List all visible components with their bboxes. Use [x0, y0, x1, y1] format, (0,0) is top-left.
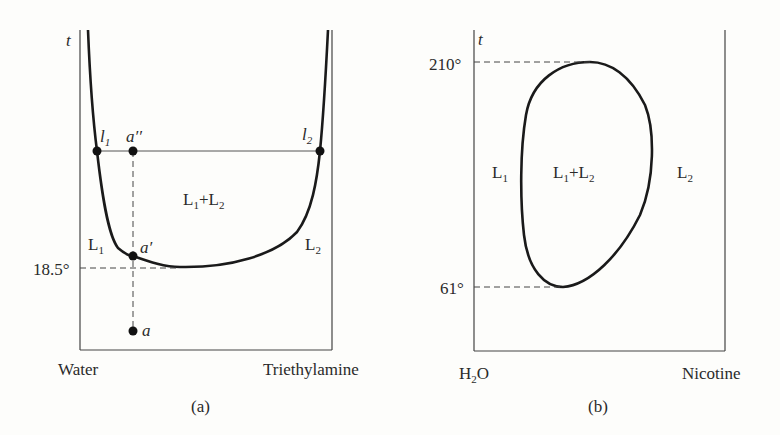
region-l1: L1 [88, 235, 104, 256]
label-a: a [142, 321, 151, 340]
label-18-5-degrees: 18.5° [33, 260, 70, 279]
label-a-prime: a′ [140, 238, 153, 257]
point-a-prime [129, 252, 138, 261]
panel-b-y-axis-label: t [478, 30, 484, 49]
panel-a-y-axis-label: t [66, 31, 72, 50]
region-l1-plus-l2: L1+L2 [183, 190, 224, 211]
point-l2 [316, 147, 325, 156]
panel-b: t 210° 61° L1 L1+L2 L2 H2O Nicotine (b) [429, 30, 741, 416]
label-water: Water [58, 360, 98, 379]
label-triethylamine: Triethylamine [263, 360, 359, 379]
point-a [129, 327, 138, 336]
point-l1 [93, 147, 102, 156]
label-a-double-prime: a′′ [126, 127, 142, 146]
label-61-degrees: 61° [440, 279, 464, 298]
label-l1: l1 [100, 127, 110, 148]
point-a-double-prime [129, 147, 138, 156]
region-l1-plus-l2: L1+L2 [553, 163, 594, 184]
region-l1: L1 [492, 163, 508, 184]
label-210-degrees: 210° [429, 55, 461, 74]
phase-diagrams: t l1 a′′ l2 a′ a L1 L2 L1+L2 18.5° Water… [0, 0, 780, 435]
region-l2: L2 [305, 235, 321, 256]
panel-a-solubility-curve [88, 30, 328, 267]
caption-b: (b) [588, 397, 608, 416]
panel-a: t l1 a′′ l2 a′ a L1 L2 L1+L2 18.5° Water… [33, 30, 359, 416]
label-nicotine: Nicotine [682, 364, 741, 383]
label-l2: l2 [302, 125, 313, 146]
label-h2o: H2O [459, 364, 489, 385]
caption-a: (a) [191, 397, 210, 416]
region-l2: L2 [677, 163, 693, 184]
